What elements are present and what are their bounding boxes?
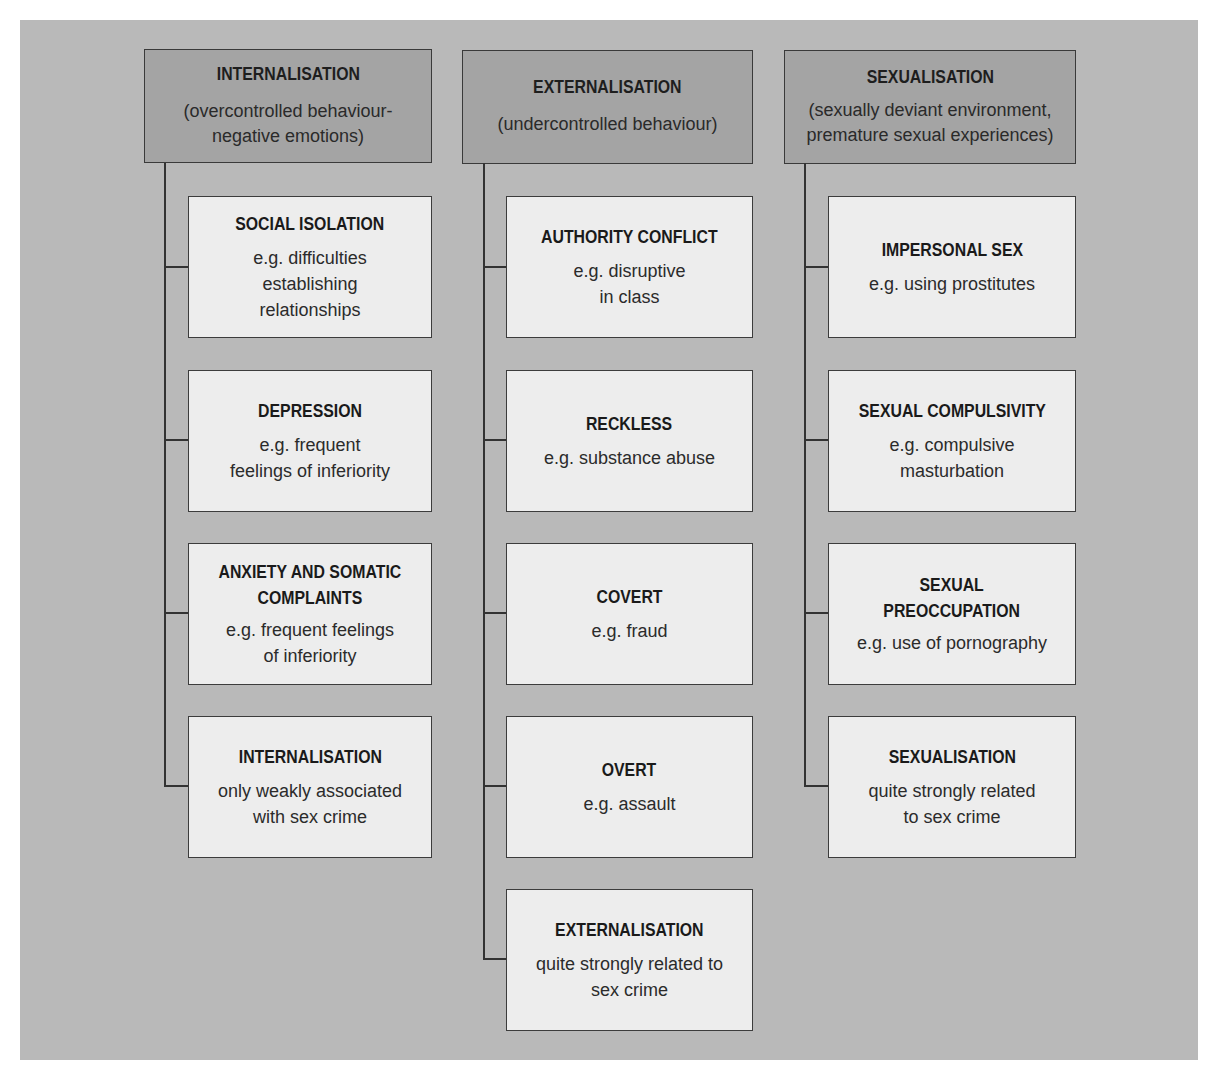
header-title: SEXUALISATION (866, 67, 993, 88)
connector-trunk (804, 163, 806, 787)
box-description: e.g. frequent feelings of inferiority (230, 432, 390, 484)
box-title: SEXUAL COMPULSIVITY (858, 398, 1045, 424)
header-sexualisation: SEXUALISATION (sexually deviant environm… (784, 50, 1076, 164)
connector-branch (164, 612, 188, 614)
connector-branch (804, 785, 828, 787)
box-title: OVERT (602, 757, 657, 783)
box-description: e.g. compulsive masturbation (889, 432, 1014, 484)
box-description: e.g. assault (583, 791, 675, 817)
header-externalisation: EXTERNALISATION (undercontrolled behavio… (462, 50, 753, 164)
box-description: e.g. using prostitutes (869, 271, 1035, 297)
box-sexual-compulsivity: SEXUAL COMPULSIVITY e.g. compulsive mast… (828, 370, 1076, 512)
connector-trunk (483, 163, 485, 960)
connector-trunk (164, 163, 166, 787)
box-description: e.g. difficulties establishing relations… (253, 245, 367, 323)
box-description: quite strongly related to sex crime (868, 778, 1035, 830)
header-subtitle: (undercontrolled behaviour) (497, 112, 717, 137)
box-title: RECKLESS (586, 411, 672, 437)
box-authority-conflict: AUTHORITY CONFLICT e.g. disruptive in cl… (506, 196, 753, 338)
box-description: only weakly associated with sex crime (218, 778, 402, 830)
connector-branch (483, 612, 506, 614)
box-social-isolation: SOCIAL ISOLATION e.g. difficulties estab… (188, 196, 432, 338)
header-internalisation: INTERNALISATION (overcontrolled behaviou… (144, 49, 432, 163)
connector-branch (483, 785, 506, 787)
box-title: IMPERSONAL SEX (881, 237, 1022, 263)
header-title: EXTERNALISATION (533, 77, 681, 98)
box-description: e.g. fraud (591, 618, 667, 644)
connector-branch (483, 958, 506, 960)
box-description: e.g. use of pornography (857, 630, 1047, 656)
connector-branch (804, 612, 828, 614)
connector-branch (483, 439, 506, 441)
box-anxiety-somatic: ANXIETY AND SOMATIC COMPLAINTS e.g. freq… (188, 543, 432, 685)
box-title: DEPRESSION (258, 398, 362, 424)
box-title: INTERNALISATION (238, 744, 381, 770)
box-internalisation-summary: INTERNALISATION only weakly associated w… (188, 716, 432, 858)
box-description: e.g. disruptive in class (573, 258, 685, 310)
box-description: quite strongly related to sex crime (536, 951, 723, 1003)
box-depression: DEPRESSION e.g. frequent feelings of inf… (188, 370, 432, 512)
connector-branch (483, 266, 506, 268)
connector-branch (804, 266, 828, 268)
box-sexual-preoccupation: SEXUAL PREOCCUPATION e.g. use of pornogr… (828, 543, 1076, 685)
box-impersonal-sex: IMPERSONAL SEX e.g. using prostitutes (828, 196, 1076, 338)
connector-branch (164, 266, 188, 268)
connector-branch (164, 785, 188, 787)
box-covert: COVERT e.g. fraud (506, 543, 753, 685)
box-sexualisation-summary: SEXUALISATION quite strongly related to … (828, 716, 1076, 858)
box-title: AUTHORITY CONFLICT (541, 224, 718, 250)
box-title: ANXIETY AND SOMATIC COMPLAINTS (219, 559, 402, 611)
connector-branch (804, 439, 828, 441)
box-externalisation-summary: EXTERNALISATION quite strongly related t… (506, 889, 753, 1031)
box-title: EXTERNALISATION (555, 917, 703, 943)
box-title: COVERT (596, 584, 662, 610)
header-subtitle: (sexually deviant environment, premature… (806, 98, 1053, 148)
box-reckless: RECKLESS e.g. substance abuse (506, 370, 753, 512)
header-title: INTERNALISATION (216, 64, 359, 85)
box-description: e.g. frequent feelings of inferiority (226, 617, 394, 669)
box-description: e.g. substance abuse (544, 445, 715, 471)
header-subtitle: (overcontrolled behaviour- negative emot… (183, 99, 392, 149)
box-overt: OVERT e.g. assault (506, 716, 753, 858)
box-title: SEXUAL PREOCCUPATION (884, 572, 1021, 624)
connector-branch (164, 439, 188, 441)
box-title: SEXUALISATION (888, 744, 1015, 770)
box-title: SOCIAL ISOLATION (235, 211, 384, 237)
